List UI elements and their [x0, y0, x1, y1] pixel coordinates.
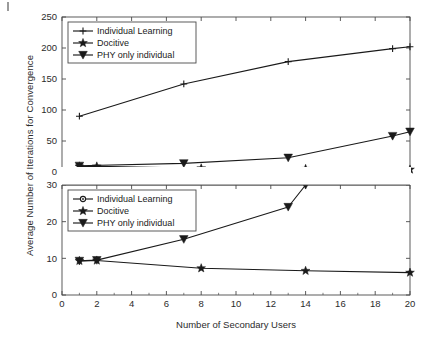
x-tick-label: 8: [199, 298, 204, 309]
x-tick-label: 6: [164, 298, 169, 309]
panel-top-panel: 050100150200250Individual LearningDociti…: [41, 11, 414, 177]
x-tick-label: 4: [129, 298, 134, 309]
y-tick-label: 250: [41, 11, 57, 22]
x-axis-label: Number of Secondary Users: [60, 319, 412, 330]
y-axis-label: Average Number of Iterations for Converg…: [24, 31, 35, 281]
legend-top-panel: Individual LearningDocitivePHY only indi…: [68, 22, 196, 63]
x-tick-label: 12: [266, 298, 277, 309]
y-tick-label: 200: [41, 42, 57, 53]
x-tick-label: 10: [231, 298, 242, 309]
y-tick-label: 10: [46, 253, 57, 264]
series-markers-2: [75, 128, 414, 170]
marker-star: [197, 264, 206, 272]
y-tick-label: 20: [46, 216, 57, 227]
x-tick-label: 18: [370, 298, 381, 309]
x-tick-label: 16: [335, 298, 346, 309]
x-tick-label: 2: [94, 298, 99, 309]
panel-bottom-panel: 024681012141618200102030Individual Learn…: [46, 167, 415, 309]
figure-container: Average Number of Iterations for Converg…: [0, 0, 426, 342]
overflow-mask: [61, 167, 411, 185]
y-tick-label: 100: [41, 104, 57, 115]
y-tick-label: 0: [52, 166, 57, 177]
plot-canvas: 050100150200250Individual LearningDociti…: [0, 0, 426, 342]
marker-plus: [76, 113, 83, 120]
series-line-2: [79, 132, 410, 166]
x-tick-label: 0: [59, 298, 64, 309]
series-markers-1: [75, 256, 414, 276]
marker-plus: [180, 81, 187, 88]
legend-label: Docitive: [97, 38, 129, 48]
y-tick-label: 30: [46, 179, 57, 190]
y-tick-label: 150: [41, 73, 57, 84]
legend-label: Docitive: [97, 206, 129, 216]
series-line-1: [79, 261, 410, 273]
y-tick-label: 50: [46, 135, 57, 146]
legend-label: Individual Learning: [97, 26, 173, 36]
legend-label: PHY only individual: [97, 218, 174, 228]
marker-plus: [407, 43, 414, 50]
x-tick-label: 14: [300, 298, 311, 309]
x-tick-label: 20: [405, 298, 416, 309]
marker-plus: [389, 45, 396, 52]
marker-plus: [285, 58, 292, 65]
y-tick-label: 0: [52, 289, 57, 300]
legend-label: Individual Learning: [97, 194, 173, 204]
marker-star: [301, 266, 310, 274]
legend-bottom-panel: Individual LearningDocitivePHY only indi…: [68, 190, 196, 231]
marker-triangle-down: [284, 203, 293, 211]
marker-circle-dot: [82, 198, 84, 200]
scan-artifact-mark: [7, 2, 9, 11]
legend-label: PHY only individual: [97, 50, 174, 60]
